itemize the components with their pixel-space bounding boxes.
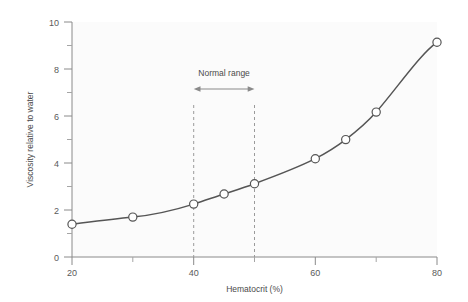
- data-point-30: [129, 213, 137, 221]
- y-tick-label-2: 2: [54, 206, 59, 216]
- x-tick-label-60: 60: [310, 268, 320, 278]
- x-tick-label-80: 80: [432, 268, 442, 278]
- viscosity-hematocrit-chart: 0 2 4 6 8 10 Viscosity relative to water…: [0, 0, 468, 302]
- data-point-50: [250, 180, 258, 188]
- data-point-80: [433, 38, 441, 46]
- data-point-40: [190, 200, 198, 208]
- normal-range-label: Normal range: [198, 68, 250, 78]
- y-tick-label-0: 0: [54, 253, 59, 263]
- data-point-20: [68, 220, 76, 228]
- y-axis-title: Viscosity relative to water: [25, 91, 35, 187]
- data-point-45: [220, 190, 228, 198]
- data-point-70: [372, 108, 380, 116]
- y-tick-label-6: 6: [54, 112, 59, 122]
- data-point-65: [342, 136, 350, 144]
- data-point-60: [311, 155, 319, 163]
- x-tick-label-20: 20: [67, 268, 77, 278]
- y-tick-label-10: 10: [49, 18, 59, 28]
- y-tick-label-8: 8: [54, 65, 59, 75]
- x-tick-label-40: 40: [189, 268, 199, 278]
- y-tick-label-4: 4: [54, 159, 59, 169]
- x-axis-title: Hematocrit (%): [226, 284, 283, 294]
